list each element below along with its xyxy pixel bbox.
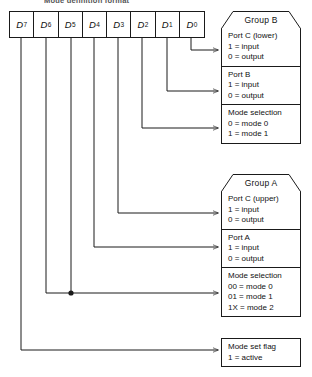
section-line: 1 = input — [228, 42, 300, 53]
wire-junction-dot — [68, 290, 73, 295]
bit-subscript: 2 — [145, 21, 149, 28]
diagram-caption: Mode definition format — [44, 0, 224, 4]
group-b-header: Group B — [221, 11, 301, 28]
wire-d4-port-a — [94, 38, 218, 247]
control-word-register: D7 D6 D5 D4 D3 D2 D1 D0 — [9, 11, 205, 38]
bit-label: D — [113, 19, 120, 30]
section-title: Port C (upper) — [228, 194, 300, 205]
flag-line: 1 = active — [228, 353, 300, 364]
section-line: 1 = input — [228, 80, 300, 91]
bit-subscript: 3 — [121, 21, 125, 28]
section-line: 00 = mode 0 — [228, 282, 300, 293]
section-port-b: Port B 1 = input 0 = output — [222, 66, 300, 105]
group-b-title: Group B — [221, 11, 301, 28]
section-port-c-upper: Port C (upper) 1 = input 0 = output — [222, 191, 300, 229]
wire-d2-mode-selection-b — [142, 38, 218, 128]
section-line: 0 = output — [228, 52, 300, 63]
bit-subscript: 1 — [169, 21, 173, 28]
bit-cell-d1: D1 — [156, 12, 180, 37]
bit-label: D — [65, 19, 72, 30]
wire-d3-port-c-upper — [118, 38, 218, 213]
group-a-title: Group A — [221, 174, 301, 191]
section-mode-selection-b: Mode selection 0 = mode 0 1 = mode 1 — [222, 104, 300, 143]
wire-d6-mode-selection-a — [46, 38, 218, 293]
flag-title: Mode set flag — [228, 342, 300, 353]
section-port-a: Port A 1 = input 0 = output — [222, 229, 300, 268]
section-line: 01 = mode 1 — [228, 292, 300, 303]
section-line: 1 = input — [228, 205, 300, 216]
bit-subscript: 0 — [194, 21, 198, 28]
bit-cell-d5: D5 — [59, 12, 83, 37]
mode-definition-format-diagram: Mode definition format D7 D6 D5 D4 D3 D2… — [0, 0, 312, 377]
section-line: 0 = mode 0 — [228, 119, 300, 130]
group-a-body: Port C (upper) 1 = input 0 = output Port… — [221, 191, 301, 317]
group-b-body: Port C (lower) 1 = input 0 = output Port… — [221, 28, 301, 144]
bit-subscript: 6 — [48, 21, 52, 28]
wire-d0-port-c-lower — [191, 38, 218, 50]
section-line: 1 = input — [228, 243, 300, 254]
bit-cell-d0: D0 — [180, 12, 204, 37]
bit-subscript: 7 — [24, 21, 28, 28]
section-line: 1 = mode 1 — [228, 129, 300, 140]
group-a-header: Group A — [221, 174, 301, 191]
section-mode-selection-a: Mode selection 00 = mode 0 01 = mode 1 1… — [222, 267, 300, 316]
section-line: 1X = mode 2 — [228, 303, 300, 314]
bit-cell-d3: D3 — [107, 12, 131, 37]
bit-subscript: 4 — [96, 21, 100, 28]
bit-label: D — [186, 19, 193, 30]
bit-label: D — [89, 19, 96, 30]
mode-set-flag-box: Mode set flag 1 = active — [221, 338, 301, 367]
bit-cell-d7: D7 — [10, 12, 34, 37]
bit-label: D — [16, 19, 23, 30]
section-title: Port A — [228, 233, 300, 244]
bit-label: D — [40, 19, 47, 30]
section-title: Mode selection — [228, 271, 300, 282]
bit-cell-d6: D6 — [34, 12, 58, 37]
section-line: 0 = output — [228, 215, 300, 226]
group-b-panel: Group B Port C (lower) 1 = input 0 = out… — [221, 11, 301, 144]
section-title: Mode selection — [228, 108, 300, 119]
bit-cell-d4: D4 — [83, 12, 107, 37]
section-title: Port C (lower) — [228, 31, 300, 42]
bit-label: D — [137, 19, 144, 30]
bit-label: D — [162, 19, 169, 30]
group-a-panel: Group A Port C (upper) 1 = input 0 = out… — [221, 174, 301, 317]
section-line: 0 = output — [228, 254, 300, 265]
bit-cell-d2: D2 — [131, 12, 155, 37]
wire-d1-port-b — [167, 38, 218, 91]
section-port-c-lower: Port C (lower) 1 = input 0 = output — [222, 28, 300, 66]
bit-subscript: 5 — [72, 21, 76, 28]
section-line: 0 = output — [228, 91, 300, 102]
wire-d7-mode-set-flag — [21, 38, 218, 350]
section-title: Port B — [228, 70, 300, 81]
